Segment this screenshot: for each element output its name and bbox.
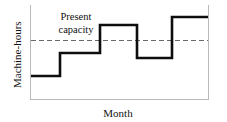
chart-figure: Machine-hours Month Present capacity: [0, 0, 227, 122]
present-capacity-label-line2: capacity: [59, 24, 95, 35]
x-axis-label: Month: [103, 107, 133, 119]
y-axis-label: Machine-hours: [11, 21, 23, 88]
step-chart-canvas: Machine-hours Month Present capacity: [0, 0, 227, 122]
present-capacity-label-line1: Present: [61, 11, 92, 22]
